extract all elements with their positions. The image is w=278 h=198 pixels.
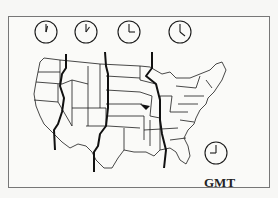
gmt-label: GMT: [204, 175, 235, 191]
central-eastern-boundary: [146, 52, 166, 168]
clock-gmt: [205, 142, 227, 164]
kansas-notch-marker: [140, 104, 150, 110]
clock-eastern: [169, 21, 191, 43]
clock-pacific: [35, 21, 57, 43]
clocks: [35, 21, 227, 164]
clock-mountain: [75, 21, 97, 43]
clock-central: [118, 21, 140, 43]
us-map: [0, 0, 278, 198]
